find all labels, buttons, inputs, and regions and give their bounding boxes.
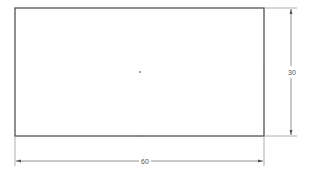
arrow-right-icon xyxy=(258,160,263,163)
bottom-midpoint[interactable] xyxy=(139,135,141,137)
height-dimension-label[interactable]: 30 xyxy=(288,69,296,76)
sketch-canvas[interactable]: 30 60 xyxy=(0,0,309,172)
width-dimension-label[interactable]: 60 xyxy=(141,158,149,165)
right-midpoint[interactable] xyxy=(263,71,265,73)
height-dimension[interactable]: 30 xyxy=(288,9,296,135)
arrow-down-icon xyxy=(290,130,293,135)
arrow-left-icon xyxy=(16,160,21,163)
arrow-up-icon xyxy=(290,9,293,14)
center-point[interactable] xyxy=(139,71,141,73)
width-dimension[interactable]: 60 xyxy=(16,158,263,165)
